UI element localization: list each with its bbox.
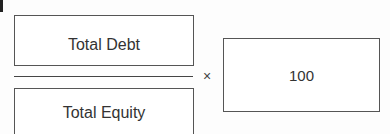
numerator-box: Total Debt <box>14 15 194 66</box>
corner-mark <box>0 0 3 12</box>
multiplier-box: 100 <box>223 38 380 112</box>
multiply-operator: × <box>203 68 211 84</box>
denominator-box: Total Equity <box>14 88 194 134</box>
numerator-label: Total Debt <box>68 36 140 54</box>
fraction-divider <box>14 76 193 77</box>
denominator-label: Total Equity <box>63 104 146 122</box>
multiplier-label: 100 <box>289 67 314 84</box>
